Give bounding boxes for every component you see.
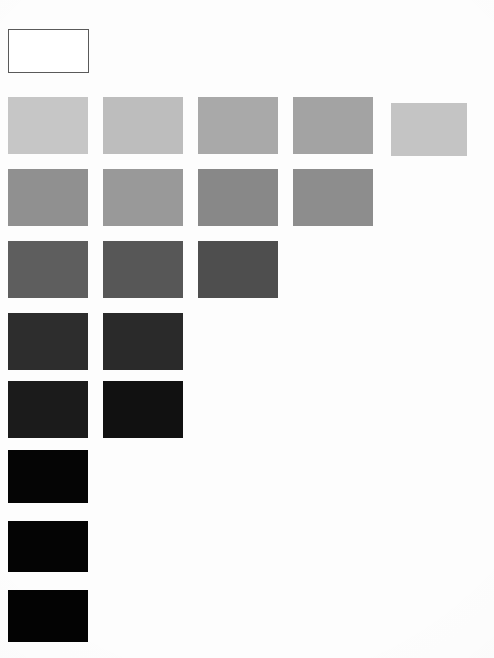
swatch-grid [0,0,494,658]
gray-swatch-r1-c5[interactable] [391,103,467,156]
gray-swatch-r2-c4[interactable] [293,169,373,226]
gray-swatch-r1-c4[interactable] [293,97,373,154]
gray-swatch-r8-c1[interactable] [8,590,88,642]
gray-swatch-r5-c2[interactable] [103,381,183,438]
gray-swatch-r1-c1[interactable] [8,97,88,154]
step-wedge-sheet [0,0,494,658]
gray-swatch-r5-c1[interactable] [8,381,88,438]
gray-swatch-r3-c3[interactable] [198,241,278,298]
gray-swatch-r6-c1[interactable] [8,450,88,503]
white-reference-box[interactable] [8,29,89,73]
gray-swatch-r2-c3[interactable] [198,169,278,226]
gray-swatch-r3-c2[interactable] [103,241,183,298]
gray-swatch-r2-c2[interactable] [103,169,183,226]
gray-swatch-r3-c1[interactable] [8,241,88,298]
gray-swatch-r7-c1[interactable] [8,521,88,572]
gray-swatch-r2-c1[interactable] [8,169,88,226]
gray-swatch-r1-c2[interactable] [103,97,183,154]
gray-swatch-r4-c2[interactable] [103,313,183,370]
gray-swatch-r1-c3[interactable] [198,97,278,154]
gray-swatch-r4-c1[interactable] [8,313,88,370]
